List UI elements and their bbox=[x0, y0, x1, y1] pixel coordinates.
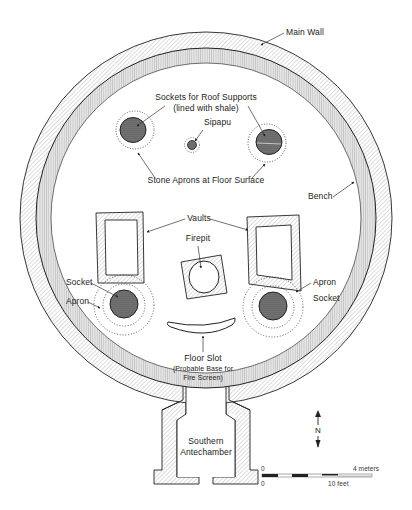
label-floor-slot-sub1: (Probable Base for bbox=[173, 365, 233, 373]
label-antechamber-1: Southern bbox=[188, 437, 223, 447]
label-sipapu: Sipapu bbox=[204, 118, 231, 128]
label-socket-right: Socket bbox=[313, 294, 340, 304]
label-floor-slot-sub2: Fire Screen) bbox=[183, 374, 223, 382]
label-sockets-title: Sockets for Roof Supports bbox=[155, 93, 257, 103]
label-sockets-sub: (lined with shale) bbox=[173, 104, 239, 114]
label-main-wall: Main Wall bbox=[286, 28, 324, 38]
label-antechamber-2: Antechamber bbox=[180, 448, 232, 458]
scale-bar bbox=[262, 474, 372, 477]
label-apron-right: Apron bbox=[313, 278, 336, 288]
label-bench: Bench bbox=[308, 192, 333, 202]
label-floor-slot: Floor Slot bbox=[184, 354, 221, 364]
label-stone-aprons: Stone Aprons at Floor Surface bbox=[148, 176, 265, 186]
scale-top-end: 4 meters bbox=[353, 465, 379, 472]
label-vaults: Vaults bbox=[187, 214, 211, 224]
label-firepit: Firepit bbox=[186, 234, 210, 244]
scale-bottom-end: 10 feet bbox=[328, 480, 349, 487]
vault-right bbox=[247, 215, 301, 291]
label-apron-left: Apron bbox=[66, 297, 89, 307]
vault-left bbox=[96, 212, 144, 283]
firepit bbox=[181, 255, 227, 299]
north-label: N bbox=[315, 426, 321, 435]
kiva-plan-diagram bbox=[0, 0, 412, 510]
scale-bottom-start: 0 bbox=[261, 480, 265, 487]
scale-top-start: 0 bbox=[261, 465, 265, 472]
label-socket-left: Socket bbox=[66, 278, 93, 288]
